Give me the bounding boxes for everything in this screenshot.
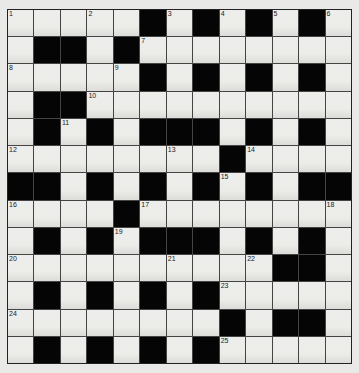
answer-cell[interactable] [193,146,218,172]
answer-cell[interactable] [140,310,165,336]
answer-cell[interactable] [8,119,33,145]
answer-cell[interactable] [8,92,33,118]
answer-cell[interactable]: 6 [326,10,351,36]
answer-cell[interactable] [8,282,33,308]
answer-cell[interactable]: 13 [167,146,192,172]
answer-cell[interactable] [8,337,33,363]
answer-cell[interactable]: 2 [87,10,112,36]
answer-cell[interactable]: 3 [167,10,192,36]
answer-cell[interactable] [140,255,165,281]
answer-cell[interactable]: 25 [220,337,245,363]
answer-cell[interactable]: 9 [114,64,139,90]
answer-cell[interactable]: 14 [246,146,271,172]
answer-cell[interactable] [34,64,59,90]
answer-cell[interactable]: 4 [220,10,245,36]
answer-cell[interactable] [167,282,192,308]
answer-cell[interactable] [61,228,86,254]
answer-cell[interactable] [34,310,59,336]
answer-cell[interactable] [220,228,245,254]
answer-cell[interactable]: 12 [8,146,33,172]
answer-cell[interactable] [61,10,86,36]
answer-cell[interactable] [8,228,33,254]
answer-cell[interactable] [61,255,86,281]
answer-cell[interactable] [34,201,59,227]
answer-cell[interactable] [246,310,271,336]
answer-cell[interactable]: 23 [220,282,245,308]
answer-cell[interactable] [273,337,298,363]
answer-cell[interactable] [167,337,192,363]
answer-cell[interactable]: 1 [8,10,33,36]
answer-cell[interactable] [299,92,324,118]
answer-cell[interactable] [61,201,86,227]
answer-cell[interactable]: 7 [140,37,165,63]
answer-cell[interactable] [114,146,139,172]
answer-cell[interactable] [114,119,139,145]
answer-cell[interactable]: 24 [8,310,33,336]
answer-cell[interactable] [273,37,298,63]
answer-cell[interactable] [246,337,271,363]
answer-cell[interactable] [61,310,86,336]
answer-cell[interactable] [61,337,86,363]
answer-cell[interactable] [273,201,298,227]
answer-cell[interactable] [140,92,165,118]
answer-cell[interactable] [167,37,192,63]
answer-cell[interactable] [61,173,86,199]
answer-cell[interactable]: 15 [220,173,245,199]
answer-cell[interactable] [87,37,112,63]
answer-cell[interactable] [167,64,192,90]
answer-cell[interactable] [193,201,218,227]
answer-cell[interactable]: 10 [87,92,112,118]
answer-cell[interactable] [220,92,245,118]
answer-cell[interactable] [220,255,245,281]
answer-cell[interactable]: 16 [8,201,33,227]
answer-cell[interactable] [61,146,86,172]
answer-cell[interactable]: 11 [61,119,86,145]
answer-cell[interactable] [61,64,86,90]
answer-cell[interactable] [326,37,351,63]
answer-cell[interactable] [193,255,218,281]
answer-cell[interactable] [326,146,351,172]
answer-cell[interactable] [326,337,351,363]
answer-cell[interactable] [167,310,192,336]
answer-cell[interactable] [114,255,139,281]
answer-cell[interactable]: 21 [167,255,192,281]
answer-cell[interactable] [273,173,298,199]
answer-cell[interactable]: 22 [246,255,271,281]
answer-cell[interactable]: 18 [326,201,351,227]
answer-cell[interactable] [220,64,245,90]
answer-cell[interactable] [326,310,351,336]
answer-cell[interactable] [299,37,324,63]
answer-cell[interactable]: 20 [8,255,33,281]
answer-cell[interactable] [299,146,324,172]
answer-cell[interactable] [167,173,192,199]
answer-cell[interactable] [273,282,298,308]
answer-cell[interactable] [114,92,139,118]
answer-cell[interactable] [326,228,351,254]
answer-cell[interactable] [193,310,218,336]
answer-cell[interactable] [273,146,298,172]
answer-cell[interactable] [246,201,271,227]
answer-cell[interactable] [61,282,86,308]
answer-cell[interactable] [8,37,33,63]
answer-cell[interactable] [273,64,298,90]
answer-cell[interactable] [87,146,112,172]
answer-cell[interactable] [167,92,192,118]
answer-cell[interactable] [34,255,59,281]
answer-cell[interactable] [87,64,112,90]
answer-cell[interactable]: 19 [114,228,139,254]
answer-cell[interactable] [220,201,245,227]
answer-cell[interactable] [273,119,298,145]
answer-cell[interactable] [34,146,59,172]
answer-cell[interactable]: 5 [273,10,298,36]
answer-cell[interactable] [246,92,271,118]
answer-cell[interactable] [193,92,218,118]
answer-cell[interactable]: 8 [8,64,33,90]
answer-cell[interactable] [273,228,298,254]
answer-cell[interactable] [114,282,139,308]
answer-cell[interactable] [87,201,112,227]
answer-cell[interactable] [220,37,245,63]
answer-cell[interactable] [326,255,351,281]
answer-cell[interactable] [246,37,271,63]
answer-cell[interactable] [273,92,298,118]
answer-cell[interactable] [246,282,271,308]
